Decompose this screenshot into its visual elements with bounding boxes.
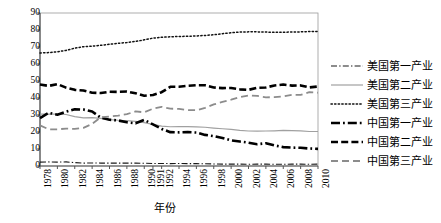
legend-label: 美国第一产业 [367, 60, 433, 72]
x-tick-label: 1998 [218, 169, 228, 188]
x-axis-tick-labels: 1978198019821984198619881990199119921994… [0, 0, 330, 223]
legend-item[interactable]: 美国第一产业 [330, 56, 441, 75]
legend-item[interactable]: 中国第一产业 [330, 113, 441, 132]
legend-swatch-icon [330, 60, 364, 72]
x-tick-label: 2002 [253, 169, 263, 188]
legend-label: 中国第一产业 [367, 117, 433, 129]
x-tick-label: 1988 [131, 169, 141, 188]
x-tick-label: 2010 [322, 169, 332, 188]
legend-swatch-icon [330, 98, 364, 110]
legend-label: 美国第二产业 [367, 79, 433, 91]
x-tick-label: 2004 [270, 169, 280, 188]
legend-item[interactable]: 美国第三产业 [330, 94, 441, 113]
legend-swatch-icon [330, 117, 364, 129]
x-tick-label: 2008 [305, 169, 315, 188]
legend-swatch-icon [330, 136, 364, 148]
legend-item[interactable]: 中国第二产业 [330, 132, 441, 151]
x-tick-label: 1996 [200, 169, 210, 188]
x-tick-label: 1978 [44, 169, 54, 188]
x-tick-label: 1980 [61, 169, 71, 188]
legend-item[interactable]: 中国第三产业 [330, 151, 441, 170]
x-tick-label: 2006 [287, 169, 297, 188]
legend-swatch-icon [330, 155, 364, 167]
legend-label: 美国第三产业 [367, 98, 433, 110]
legend-label: 中国第三产业 [367, 155, 433, 167]
x-tick-label: 1982 [79, 169, 89, 188]
x-axis-title: 年份 [0, 202, 330, 214]
x-tick-label: 1984 [96, 169, 106, 188]
legend-swatch-icon [330, 79, 364, 91]
x-tick-label: 2000 [235, 169, 245, 188]
legend-label: 中国第二产业 [367, 136, 433, 148]
x-tick-label: 1994 [183, 169, 193, 188]
x-tick-label: 1986 [114, 169, 124, 188]
x-tick-label: 1992 [166, 169, 176, 188]
industry-share-line-chart: 0102030405060708090 19781980198219841986… [0, 0, 441, 223]
legend-item[interactable]: 美国第二产业 [330, 75, 441, 94]
chart-legend: 美国第一产业美国第二产业美国第三产业中国第一产业中国第二产业中国第三产业 [330, 56, 441, 170]
